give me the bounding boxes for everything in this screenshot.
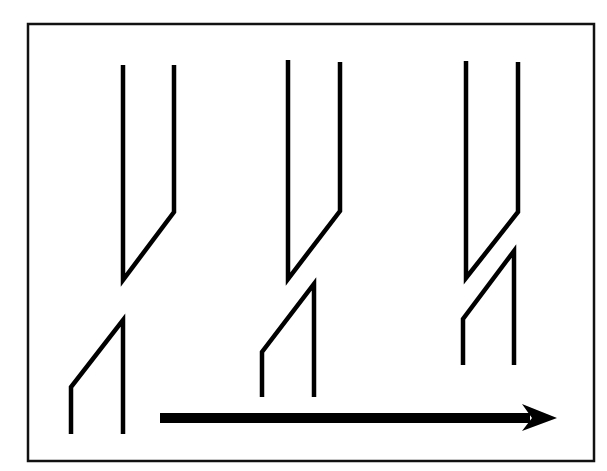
stage-2 [262,60,340,397]
diagram-frame [28,24,594,461]
lower-strand-shape [262,284,314,397]
lower-strand-shape [71,320,123,434]
lower-strand-shape [463,251,514,365]
stage-3 [463,61,518,365]
upper-strand-shape [123,65,174,280]
stage-1 [71,65,174,434]
diagram-canvas [0,0,607,471]
upper-strand-shape [288,60,340,279]
progress-arrow [160,404,557,431]
upper-strand-shape [466,61,518,278]
